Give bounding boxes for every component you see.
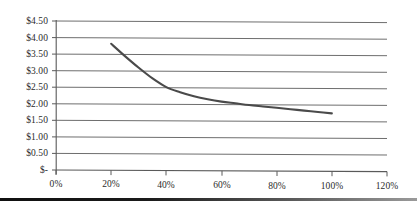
y-tick-label: $3.00: [10, 66, 48, 76]
x-tick-label: 120%: [367, 181, 407, 191]
y-tick-label: $3.50: [10, 49, 48, 59]
horizontal-gridlines: [56, 21, 387, 155]
y-tick-label: $2.50: [10, 82, 48, 92]
y-tick-label: $4.00: [10, 33, 48, 43]
x-tick-label: 0%: [36, 179, 76, 189]
x-tick-label: 80%: [257, 181, 297, 191]
y-tick-label: $-: [10, 165, 48, 175]
line-chart-figure: $4.50 $4.00 $3.50 $3.00 $2.50 $2.00 $1.5…: [0, 0, 417, 205]
y-tick-label: $4.50: [10, 16, 48, 26]
x-tick-label: 20%: [91, 179, 131, 189]
page-bottom-rule: [0, 198, 417, 201]
y-tick-label: $2.00: [10, 99, 48, 109]
chart-page: $4.50 $4.00 $3.50 $3.00 $2.50 $2.00 $1.5…: [0, 0, 417, 205]
x-tick-label: 60%: [202, 180, 242, 190]
y-tick-label: $1.50: [10, 115, 48, 125]
x-tick-label: 40%: [146, 180, 186, 190]
y-axis-tick-marks: [52, 21, 56, 170]
chart-canvas: [0, 0, 417, 205]
y-tick-label: $1.00: [10, 132, 48, 142]
y-tick-label: $0.50: [10, 148, 48, 158]
x-tick-label: 100%: [312, 181, 352, 191]
